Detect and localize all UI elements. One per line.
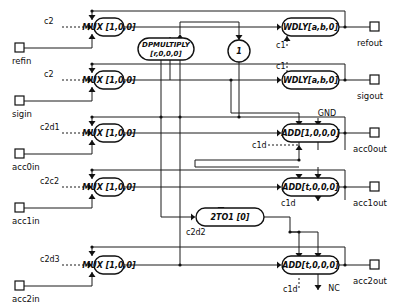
block-mux-acc0-label: MUX [1,0,0] — [82, 129, 136, 138]
port-acc1in[interactable] — [15, 203, 24, 212]
port-acc1out[interactable] — [370, 182, 379, 191]
signal-arrowheads — [88, 15, 322, 290]
port-acc2out[interactable] — [370, 260, 379, 269]
block-wdly-sig-label: WDLY[a,b,0] — [283, 76, 339, 85]
port-label-refout: refout — [357, 38, 383, 48]
port-acc0out[interactable] — [370, 128, 379, 137]
block-dpmultiply[interactable]: DPMULTIPLY [r,0,0,0] — [138, 38, 194, 60]
port-label-sigout: sigout — [357, 91, 384, 101]
block-mux-ref-label: MUX [1,0,0] — [82, 23, 136, 32]
port-acc0in[interactable] — [15, 149, 24, 158]
port-label-refin: refin — [12, 56, 31, 66]
block-wdly-sig[interactable]: WDLY[a,b,0] — [282, 71, 339, 89]
control-label-c2d2: c2d2 — [186, 228, 206, 237]
control-label-c1-sig: c1 — [276, 62, 286, 71]
block-add-acc2[interactable]: ADD[t,0,0,0] — [281, 256, 339, 274]
block-mux-sig[interactable]: MUX [1,0,0] — [82, 71, 136, 89]
schematic-canvas: MUX [1,0,0] WDLY[a,b,0] MUX [1,0,0] WDLY… — [0, 0, 400, 305]
port-label-sigin: sigin — [12, 109, 32, 119]
control-label-c1d-acc1: c1d — [281, 199, 296, 208]
block-add-acc1-label: ADD[t,0,0,0] — [281, 183, 339, 192]
block-constant-one[interactable]: 1 — [228, 40, 250, 62]
port-label-acc2out: acc2out — [353, 276, 388, 286]
block-add-acc1[interactable]: ADD[t,0,0,0] — [281, 178, 339, 196]
block-mux-acc2[interactable]: MUX [1,0,0] — [82, 256, 136, 274]
block-mux-acc1-label: MUX [1,0,0] — [82, 183, 136, 192]
block-2to1-label: 2TO1 [0] — [210, 213, 249, 222]
block-mux-acc1[interactable]: MUX [1,0,0] — [82, 178, 136, 196]
block-wdly-ref-label: WDLY[a,b,0] — [283, 23, 339, 32]
datapath-schematic: MUX [1,0,0] WDLY[a,b,0] MUX [1,0,0] WDLY… — [0, 0, 400, 305]
port-sigin[interactable] — [15, 96, 24, 105]
block-dpmultiply-label-line2: [r,0,0,0] — [149, 50, 182, 58]
block-mux-ref[interactable]: MUX [1,0,0] — [82, 18, 136, 36]
port-acc2in[interactable] — [15, 281, 24, 290]
port-label-acc0out: acc0out — [353, 144, 388, 154]
wire-network — [22, 11, 370, 290]
control-label-c2c2: c2c2 — [40, 177, 59, 186]
control-label-c2-sig: c2 — [44, 70, 54, 79]
block-mux-sig-label: MUX [1,0,0] — [82, 76, 136, 85]
port-refin[interactable] — [15, 43, 24, 52]
block-add-acc0-label: ADD[1,0,0,0] — [280, 129, 340, 138]
block-2to1[interactable]: 2TO1 [0] — [196, 208, 264, 226]
control-label-c1d-acc2: c1d — [283, 285, 298, 294]
port-label-acc1out: acc1out — [353, 198, 388, 208]
net-label-nc: NC — [328, 284, 340, 293]
block-constant-one-label: 1 — [236, 47, 242, 56]
port-label-acc1in: acc1in — [12, 216, 40, 226]
block-mux-acc0[interactable]: MUX [1,0,0] — [82, 124, 136, 142]
control-label-c1d-acc0: c1d — [252, 141, 267, 150]
port-label-acc0in: acc0in — [12, 162, 40, 172]
port-sigout[interactable] — [370, 75, 379, 84]
block-wdly-ref[interactable]: WDLY[a,b,0] — [282, 18, 339, 36]
port-refout[interactable] — [370, 22, 379, 31]
control-label-c1-ref: c1 — [276, 41, 286, 50]
block-add-acc0[interactable]: ADD[1,0,0,0] — [280, 124, 340, 142]
net-label-gnd: GND — [318, 109, 336, 118]
port-label-acc2in: acc2in — [12, 294, 40, 304]
control-label-c2-ref: c2 — [44, 17, 54, 26]
block-mux-acc2-label: MUX [1,0,0] — [82, 261, 136, 270]
block-add-acc2-label: ADD[t,0,0,0] — [281, 261, 339, 270]
control-label-c2d3: c2d3 — [40, 255, 60, 264]
block-dpmultiply-label-line1: DPMULTIPLY — [142, 41, 191, 49]
control-label-c2d1: c2d1 — [40, 123, 60, 132]
